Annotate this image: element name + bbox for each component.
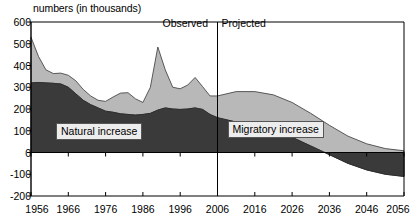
observed-period-label: Observed [163,17,209,29]
series-label-migratory-increase: Migratory increase [228,121,324,138]
chart-plot-area [0,0,413,223]
projected-period-label: Projected [222,17,266,29]
series-label-natural-increase: Natural increase [56,123,142,140]
population-change-area-chart: numbers (in thousands) 60050040030020010… [0,0,413,223]
